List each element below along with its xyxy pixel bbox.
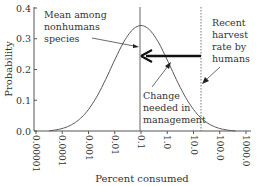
- x-tick-label: 10.0: [189, 135, 199, 155]
- annotation-mean: Mean among nonhumans species: [44, 9, 110, 44]
- chart: 0.00.10.20.30.4 0.000010.00010.0010.010.…: [0, 0, 258, 186]
- x-tick-label: 0.1: [136, 135, 146, 149]
- x-tick-label: 0.001: [84, 135, 94, 161]
- change-pointer: [152, 66, 168, 87]
- x-tick-label: 0.01: [110, 135, 120, 155]
- harvest-pointer: [207, 67, 220, 79]
- y-tick-label: 0.3: [16, 33, 31, 44]
- y-tick-label: 0.2: [16, 64, 31, 75]
- y-tick-label: 0.0: [16, 126, 31, 137]
- mean-pointer: [92, 38, 134, 46]
- x-tick-label: 1000.0: [241, 135, 251, 167]
- x-tick-label: 0.00001: [31, 135, 41, 172]
- annotation-change: Change needed in management: [143, 90, 206, 125]
- x-tick-label: 0.0001: [57, 135, 67, 167]
- x-tick-label: 1.0: [162, 135, 172, 150]
- y-axis-label: Probability: [3, 41, 14, 97]
- mean-pointer-head-icon: [133, 44, 139, 48]
- y-tick-label: 0.4: [16, 3, 31, 14]
- x-tick-label: 100.0: [215, 135, 225, 161]
- x-ticks: 0.000010.00010.0010.010.11.010.0100.0100…: [31, 131, 251, 172]
- x-axis-label: Percent consumed: [95, 173, 189, 184]
- y-tick-label: 0.1: [16, 95, 31, 106]
- annotation-harvest: Recent harvest rate by humans: [212, 17, 251, 64]
